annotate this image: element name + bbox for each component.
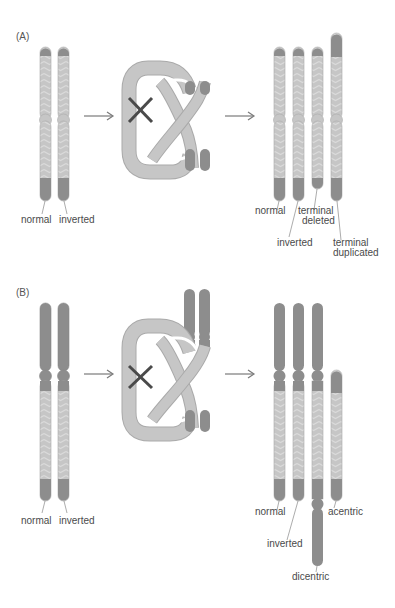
panel-b-right-label-acentric: acentric: [328, 506, 363, 517]
panel-a-right-terminal-deleted-chromosome: [312, 47, 324, 189]
panel-a-right-normal-chromosome: [274, 47, 286, 201]
panel-a-left-inverted-chromosome: [58, 47, 70, 201]
panel-a-label-normal: normal: [21, 214, 52, 225]
chromosome-inversion-diagram: (A) normal inverted: [0, 0, 395, 608]
panel-b-left-inverted-chromosome: [58, 303, 70, 501]
panel-b-left-normal-chromosome: [40, 303, 52, 501]
panel-b-label-inverted: inverted: [59, 515, 95, 526]
right-arrow-icon: [225, 112, 254, 120]
panel-b-right-normal-chromosome: [274, 303, 286, 501]
panel-b-right-inverted-chromosome: [293, 303, 305, 501]
panel-b-label-normal: normal: [21, 515, 52, 526]
panel-b-inversion-loop: [129, 289, 210, 434]
panel-b-right-dicentric-chromosome: [312, 303, 324, 566]
panel-a-right-terminal-duplicated-chromosome: [331, 33, 343, 201]
panel-b-right-acentric-chromosome: [331, 370, 342, 501]
panel-b-right-label-inverted: inverted: [267, 538, 303, 549]
panel-a-right-label-terminal-deleted-line2: deleted: [302, 215, 335, 226]
right-arrow-icon: [84, 112, 113, 120]
panel-b-right-label-dicentric: dicentric: [292, 571, 329, 582]
panel-b-right-label-normal: normal: [255, 506, 286, 517]
right-arrow-icon: [84, 370, 113, 378]
panel-a-right-label-normal: normal: [255, 205, 286, 216]
panel-a-right-inverted-chromosome: [293, 47, 305, 201]
panel-a-right-label-inverted: inverted: [277, 237, 313, 248]
panel-a-label-inverted: inverted: [59, 214, 95, 225]
panel-b-label: (B): [16, 287, 29, 298]
panel-a-label: (A): [16, 31, 29, 42]
panel-a-left-normal-chromosome: [40, 47, 52, 201]
panel-a-right-label-terminal-duplicated-line2: duplicated: [333, 247, 379, 258]
right-arrow-icon: [225, 370, 254, 378]
panel-a-inversion-loop: [129, 68, 210, 172]
